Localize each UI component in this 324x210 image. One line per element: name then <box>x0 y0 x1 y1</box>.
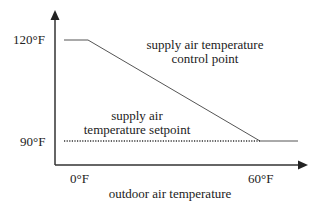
y-tick-120: 120°F <box>13 33 45 47</box>
x-tick-60: 60°F <box>248 172 273 186</box>
y-tick-90: 90°F <box>20 135 45 149</box>
x-axis-arrow-icon <box>298 161 308 170</box>
control-point-label: supply air temperature control point <box>130 38 280 66</box>
control-point-label-line1: supply air temperature <box>130 38 280 52</box>
diagram-canvas <box>0 0 324 210</box>
y-axis-arrow-icon <box>51 10 60 20</box>
control-point-label-line2: control point <box>130 52 280 66</box>
setpoint-label-line2: temperature setpoint <box>72 123 202 137</box>
setpoint-label-line1: supply air <box>72 109 202 123</box>
setpoint-label: supply air temperature setpoint <box>72 109 202 137</box>
x-tick-0: 0°F <box>70 172 89 186</box>
x-axis-title: outdoor air temperature <box>105 187 235 201</box>
